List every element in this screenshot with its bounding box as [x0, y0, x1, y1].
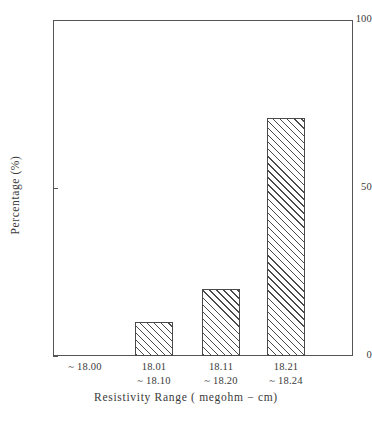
x-axis-title: Resistivity Range ( megohm − cm) [0, 391, 372, 403]
y-tick-mark-100 [53, 20, 58, 21]
y-tick-mark-0 [53, 356, 58, 357]
y-axis-tick-label-50: 50 [324, 182, 372, 193]
y-axis-title: Percentage (%) [4, 120, 26, 270]
y-tick-mark-50 [53, 188, 58, 189]
bar-18.21-18.24 [267, 118, 305, 356]
x-axis-tick-label-3: 18.21 ~ 18.24 [246, 360, 326, 388]
bar-chart-figure: 100 50 0 Percentage (%) ~ 18.00 18.01 ~ … [0, 0, 372, 421]
y-axis-tick-label-100: 100 [324, 14, 372, 25]
bar-18.01-18.10 [135, 322, 173, 356]
x-tick-3-line2: ~ 18.24 [246, 374, 326, 388]
x-axis-tick-label-0: ~ 18.00 [45, 360, 125, 374]
x-tick-0-line1: ~ 18.00 [45, 360, 125, 374]
y-axis-title-text: Percentage (%) [9, 156, 21, 235]
x-tick-3-line1: 18.21 [246, 360, 326, 374]
y-axis-tick-label-0: 0 [324, 350, 372, 361]
bar-18.11-18.20 [202, 289, 240, 356]
